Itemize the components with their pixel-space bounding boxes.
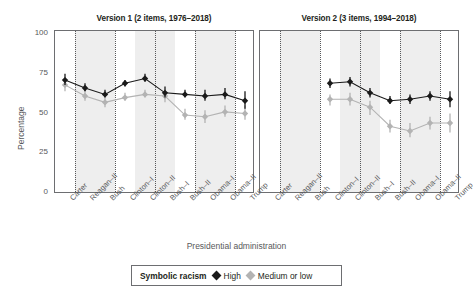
x-tick-obama-i: Obama–I bbox=[208, 196, 214, 202]
data-point-diamond-icon bbox=[447, 120, 453, 126]
data-point-diamond-icon bbox=[242, 98, 248, 104]
data-point-diamond-icon bbox=[82, 85, 88, 91]
data-point-diamond-icon bbox=[142, 91, 148, 97]
x-tick-obama-ii: Obama–II bbox=[433, 196, 439, 202]
x-tick-carter: Carter bbox=[273, 196, 279, 202]
legend-entry-medium-or-low[interactable]: Medium or low bbox=[247, 271, 312, 281]
x-tick-bush: Bush bbox=[108, 196, 114, 202]
data-point-diamond-icon bbox=[202, 93, 208, 99]
x-tick-bush-ii: Bush–II bbox=[393, 196, 399, 202]
data-point-diamond-icon bbox=[242, 110, 248, 116]
x-tick-reagan-ii: Reagan–II bbox=[88, 196, 94, 202]
data-point-diamond-icon bbox=[182, 91, 188, 97]
data-point-diamond-icon bbox=[387, 98, 393, 104]
data-point-diamond-icon bbox=[122, 80, 128, 86]
panel-2-title: Version 2 (3 items, 1994–2018) bbox=[259, 14, 459, 23]
x-tick-obama-ii: Obama–II bbox=[228, 196, 234, 202]
data-point-diamond-icon bbox=[102, 91, 108, 97]
data-point-diamond-icon bbox=[102, 99, 108, 105]
x-axis-label: Presidential administration bbox=[0, 241, 473, 251]
panel-1-plot bbox=[54, 30, 254, 193]
data-point-diamond-icon bbox=[222, 91, 228, 97]
y-tick-25: 25 bbox=[24, 147, 48, 156]
figure-root: Percentage 1007550250 Version 1 (2 items… bbox=[0, 0, 473, 298]
data-point-diamond-icon bbox=[367, 90, 373, 96]
series-line-high bbox=[65, 79, 245, 101]
panel-1-title: Version 1 (2 items, 1976–2018) bbox=[54, 14, 254, 23]
legend-label-high: High bbox=[224, 271, 241, 281]
series-line-medium-or-low bbox=[65, 85, 245, 117]
x-tick-trump: Trump bbox=[453, 196, 459, 202]
data-point-diamond-icon bbox=[202, 113, 208, 119]
x-tick-clinton-ii: Clinton–II bbox=[148, 196, 154, 202]
data-point-diamond-icon bbox=[347, 79, 353, 85]
data-point-diamond-icon bbox=[222, 109, 228, 115]
data-point-diamond-icon bbox=[122, 94, 128, 100]
data-point-diamond-icon bbox=[407, 96, 413, 102]
y-tick-100: 100 bbox=[24, 28, 48, 37]
data-point-diamond-icon bbox=[407, 128, 413, 134]
legend-label-medium-or-low: Medium or low bbox=[258, 271, 312, 281]
x-tick-obama-i: Obama–I bbox=[413, 196, 419, 202]
data-point-diamond-icon bbox=[427, 93, 433, 99]
diamond-icon bbox=[245, 271, 255, 281]
data-point-diamond-icon bbox=[447, 96, 453, 102]
data-point-diamond-icon bbox=[62, 77, 68, 83]
panel-1-series-layer bbox=[55, 31, 254, 193]
data-point-diamond-icon bbox=[327, 96, 333, 102]
data-point-diamond-icon bbox=[427, 120, 433, 126]
panel-2-plot bbox=[259, 30, 459, 193]
legend-title: Symbolic racism bbox=[140, 271, 207, 281]
x-tick-bush-ii: Bush–II bbox=[188, 196, 194, 202]
y-tick-75: 75 bbox=[24, 68, 48, 77]
panel-2-series-layer bbox=[260, 31, 459, 193]
legend-entry-high[interactable]: High bbox=[213, 271, 241, 281]
x-tick-bush-i: Bush–I bbox=[168, 196, 174, 202]
x-tick-carter: Carter bbox=[68, 196, 74, 202]
x-tick-bush: Bush bbox=[313, 196, 319, 202]
x-tick-trump: Trump bbox=[248, 196, 254, 202]
x-tick-clinton-i: Clinton–I bbox=[333, 196, 339, 202]
legend: Symbolic racism High Medium or low bbox=[131, 265, 342, 286]
x-tick-clinton-ii: Clinton–II bbox=[353, 196, 359, 202]
data-point-diamond-icon bbox=[347, 96, 353, 102]
x-tick-clinton-i: Clinton–I bbox=[128, 196, 134, 202]
data-point-diamond-icon bbox=[82, 93, 88, 99]
y-tick-50: 50 bbox=[24, 108, 48, 117]
x-tick-reagan-ii: Reagan–II bbox=[293, 196, 299, 202]
data-point-diamond-icon bbox=[327, 80, 333, 86]
diamond-icon bbox=[211, 271, 221, 281]
y-tick-0: 0 bbox=[24, 187, 48, 196]
x-tick-bush-i: Bush–I bbox=[373, 196, 379, 202]
